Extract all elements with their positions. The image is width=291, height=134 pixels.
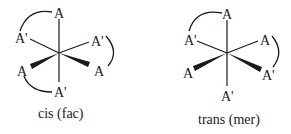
cis-fac-structure: A A' A' A A A' cis (fac)	[15, 6, 114, 122]
wedge-bond-lower-left	[30, 53, 59, 69]
arc-upper-right-lower-right	[272, 36, 279, 67]
cis-fac-caption: cis (fac)	[38, 106, 84, 122]
arc-top-upper-left	[20, 11, 52, 31]
isomer-diagram: A A' A' A A A' cis (fac) A A' A A A' A' …	[0, 0, 291, 134]
ligand-top: A	[54, 6, 65, 21]
wedge-bond-lower-right	[59, 53, 90, 67]
arc-upper-right-lower-right	[106, 36, 114, 66]
ligand-upper-right: A'	[91, 34, 104, 49]
ligand-upper-left: A'	[184, 33, 197, 48]
bond-upper-left	[30, 39, 59, 53]
ligand-upper-left: A'	[15, 31, 28, 46]
ligand-top: A	[222, 7, 233, 22]
ligand-bottom: A'	[221, 89, 234, 104]
ligand-lower-left: A	[17, 64, 28, 79]
ligand-lower-right: A	[94, 64, 105, 79]
bond-upper-right	[59, 42, 89, 53]
trans-mer-structure: A A' A A A' A' trans (mer)	[183, 7, 279, 128]
ligand-lower-right: A'	[262, 68, 275, 83]
trans-mer-caption: trans (mer)	[198, 112, 260, 128]
wedge-bond-lower-right	[227, 53, 262, 72]
ligand-bottom: A'	[54, 85, 67, 100]
wedge-bond-lower-left	[193, 53, 227, 71]
arc-lower-left-bottom	[24, 76, 52, 92]
bond-upper-right	[227, 41, 258, 53]
ligand-upper-right: A	[260, 33, 271, 48]
bond-upper-left	[197, 41, 227, 53]
ligand-lower-left: A	[183, 66, 194, 81]
arc-top-upper-left	[189, 12, 222, 31]
